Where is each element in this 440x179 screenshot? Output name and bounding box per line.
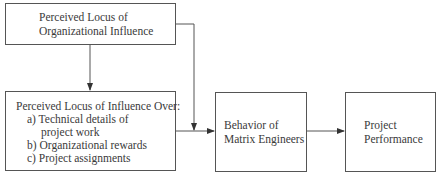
influence-item-c: c) Project assignments [27,151,130,165]
influence-over-box: Perceived Locus of Influence Over: a) Te… [5,91,176,171]
performance-box: Project Performance [345,92,436,172]
behavior-line1: Behavior of [224,118,279,132]
behavior-line2: Matrix Engineers [224,132,304,146]
performance-line1: Project [364,118,397,132]
performance-line2: Performance [364,132,423,146]
influence-item-a-cont: project work [41,125,99,139]
org-influence-line2: Organizational Influence [39,24,153,38]
influence-item-b: b) Organizational rewards [27,138,147,152]
org-influence-line1: Perceived Locus of [39,10,128,24]
influence-over-title: Perceived Locus of Influence Over: [16,99,180,113]
influence-item-a: a) Technical details of [27,112,128,126]
arrow-org-to-behavior [175,24,194,130]
behavior-box: Behavior of Matrix Engineers [215,92,307,172]
org-influence-box: Perceived Locus of Organizational Influe… [5,3,176,45]
